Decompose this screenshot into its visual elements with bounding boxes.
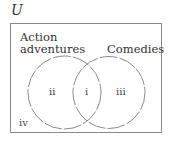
set-label-action-adventures: Action adventures	[20, 31, 85, 55]
region-only-comedies: iii	[116, 86, 126, 97]
set-label-line2: adventures	[20, 43, 85, 55]
region-intersection: i	[85, 86, 88, 97]
set-label-comedies: Comedies	[107, 43, 164, 55]
circle-comedies	[73, 57, 145, 129]
circle-action-adventures	[28, 56, 101, 129]
region-outside: iv	[19, 117, 28, 128]
region-only-action: ii	[49, 86, 55, 97]
